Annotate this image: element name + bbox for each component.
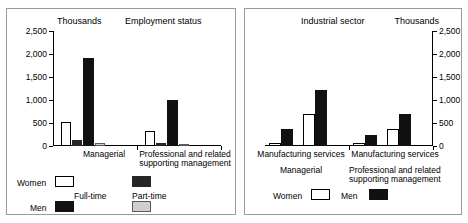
y-tick-2000 xyxy=(49,54,53,55)
bar-managerial-men-part-time xyxy=(95,143,105,146)
employment-status-panel: Thousands Employment status 2,5002,0001,… xyxy=(6,8,236,215)
right-xlabel-group1: Manufacturing services xyxy=(255,150,347,160)
right-xgroup-managerial: Managerial xyxy=(255,166,347,176)
y-tick-2500 xyxy=(49,31,53,32)
industrial-sector-panel: Industrial sector Thousands 2,5002,0001,… xyxy=(244,8,462,215)
bar-professional-men-part-time xyxy=(179,144,189,146)
y-tick-label-1000: 1,000 xyxy=(439,96,460,105)
bar-managerial-women-full-time xyxy=(61,122,71,146)
bar-managerial-services-men xyxy=(315,90,327,146)
right-legend-swatch-men[interactable] xyxy=(369,189,388,200)
right-xgroup-professional-line2: supporting management xyxy=(349,175,449,185)
left-unit-label: Thousands xyxy=(57,16,102,26)
y-tick-label-1500: 1,500 xyxy=(26,73,47,82)
right-xlabel-group2: Manufacturing services xyxy=(349,150,441,160)
bar-managerial-men-full-time xyxy=(83,58,93,146)
left-legend-row-women: Women xyxy=(17,179,46,189)
y-tick-2500 xyxy=(433,31,437,32)
right-legend-swatch-women[interactable] xyxy=(311,189,330,200)
left-panel-title: Employment status xyxy=(125,16,202,26)
y-tick-label-2000: 2,000 xyxy=(26,50,47,59)
y-tick-label-2500: 2,500 xyxy=(439,27,460,36)
bar-managerial-women-part-time xyxy=(72,140,82,146)
right-y-axis xyxy=(432,31,433,146)
left-legend-swatch-women-full-time[interactable] xyxy=(55,176,74,187)
right-panel-title: Industrial sector xyxy=(301,16,365,26)
y-tick-label-2000: 2,000 xyxy=(439,50,460,59)
left-legend-row-men: Men xyxy=(30,204,47,214)
bar-professional-women-part-time xyxy=(156,143,166,146)
bar-managerial-services-women xyxy=(303,114,315,146)
y-tick-2000 xyxy=(433,54,437,55)
bar-managerial-manufacturing-women xyxy=(269,143,281,146)
left-legend-swatch-men-part-time[interactable] xyxy=(132,201,151,212)
y-tick-1500 xyxy=(49,77,53,78)
y-tick-500 xyxy=(49,123,53,124)
y-tick-label-500: 500 xyxy=(439,119,453,128)
left-legend-swatch-men-full-time[interactable] xyxy=(55,201,74,212)
right-plot-area: 2,5002,0001,5001,0005000 xyxy=(265,31,433,146)
left-xgroup-professional-line2: supporting management xyxy=(135,159,235,169)
y-tick-label-2500: 2,500 xyxy=(26,27,47,36)
y-tick-1000 xyxy=(49,100,53,101)
bar-professional-men-full-time xyxy=(167,100,177,146)
left-legend-swatch-women-part-time[interactable] xyxy=(132,176,151,187)
y-tick-1500 xyxy=(433,77,437,78)
y-tick-label-1500: 1,500 xyxy=(439,73,460,82)
y-tick-1000 xyxy=(433,100,437,101)
bar-professional-women-full-time xyxy=(145,131,155,146)
chart-figure: Thousands Employment status 2,5002,0001,… xyxy=(0,0,468,223)
bar-managerial-manufacturing-men xyxy=(281,129,293,146)
right-unit-label: Thousands xyxy=(394,16,439,26)
left-y-axis xyxy=(53,31,54,146)
y-tick-label-0: 0 xyxy=(42,142,47,151)
y-tick-label-500: 500 xyxy=(33,119,47,128)
left-legend-col-full-time: Full-time xyxy=(74,192,107,202)
bar-professional-services-women xyxy=(387,129,399,146)
right-legend-label-women: Women xyxy=(273,192,302,202)
right-legend-label-men: Men xyxy=(341,192,358,202)
bar-professional-manufacturing-men xyxy=(365,135,377,146)
y-tick-0 xyxy=(49,146,53,147)
y-tick-500 xyxy=(433,123,437,124)
y-tick-label-1000: 1,000 xyxy=(26,96,47,105)
left-plot-area: 2,5002,0001,5001,0005000 xyxy=(53,31,221,146)
bar-professional-services-men xyxy=(399,114,411,146)
bar-professional-manufacturing-women xyxy=(353,143,365,146)
